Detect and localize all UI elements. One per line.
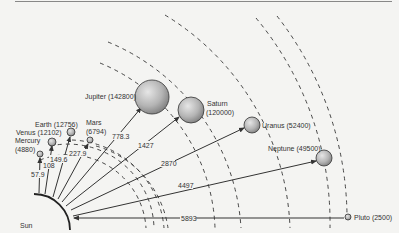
planet-pluto bbox=[345, 214, 351, 220]
distance-uranus: 2870 bbox=[161, 160, 177, 167]
distance-mars: 227.9 bbox=[69, 150, 87, 157]
distance-jupiter: 778.3 bbox=[112, 133, 130, 140]
planet-saturn bbox=[178, 97, 204, 123]
planet-mercury bbox=[37, 151, 43, 157]
label-neptune: Neptune (49500) bbox=[268, 145, 321, 153]
distance-neptune: 4497 bbox=[178, 182, 194, 189]
solar-system-diagram: Sun Mercury (4880) Venus (12102) Earth (… bbox=[0, 0, 399, 233]
label-pluto: Pluto (2500) bbox=[354, 214, 392, 222]
planet-earth bbox=[67, 128, 75, 136]
orbit-mars bbox=[96, 146, 168, 228]
label-mercury-diameter: (4880) bbox=[15, 146, 35, 154]
diagram-canvas: Sun Mercury (4880) Venus (12102) Earth (… bbox=[0, 0, 399, 233]
distance-venus: 108 bbox=[43, 162, 55, 169]
label-mars-diameter: (6794) bbox=[86, 128, 106, 136]
planet-uranus bbox=[244, 117, 260, 133]
planet-jupiter bbox=[135, 80, 169, 114]
label-uranus: Uranus (52400) bbox=[262, 122, 311, 130]
label-mercury-name: Mercury bbox=[15, 137, 41, 145]
label-jupiter: Jupiter (142800) bbox=[85, 93, 136, 101]
label-saturn-diameter: (120000) bbox=[206, 109, 234, 117]
label-saturn-name: Saturn bbox=[207, 100, 228, 107]
distance-labels: 57.9 108 149.6 227.9 778.3 1427 2870 449… bbox=[30, 132, 197, 222]
distance-mercury: 57.9 bbox=[31, 171, 45, 178]
planet-venus bbox=[48, 138, 56, 146]
distance-earth: 149.6 bbox=[50, 156, 68, 163]
distance-pluto: 5893 bbox=[181, 215, 197, 222]
label-venus: Venus (12102) bbox=[16, 129, 62, 137]
planet-mars bbox=[87, 137, 93, 143]
planet-neptune bbox=[316, 150, 332, 166]
label-earth: Earth (12756) bbox=[35, 121, 78, 129]
distance-saturn: 1427 bbox=[138, 142, 154, 149]
sun-label: Sun bbox=[20, 222, 33, 229]
label-mars-name: Mars bbox=[86, 119, 102, 126]
